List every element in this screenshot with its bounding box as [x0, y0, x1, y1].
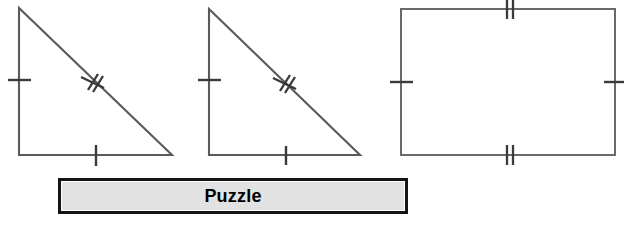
- puzzle-label-box-inner: Puzzle: [61, 181, 405, 211]
- rectangle: [390, 0, 624, 165]
- right-triangle-1: [8, 8, 172, 166]
- triangle-1-outline: [19, 8, 172, 155]
- geometry-figure-canvas: Puzzle: [0, 0, 624, 236]
- puzzle-label-text: Puzzle: [204, 187, 261, 205]
- puzzle-label-box: Puzzle: [58, 178, 408, 214]
- right-triangle-2: [198, 9, 360, 165]
- triangle-1-hypotenuse-double-tick-icon: [81, 74, 104, 92]
- rectangle-outline: [401, 9, 615, 155]
